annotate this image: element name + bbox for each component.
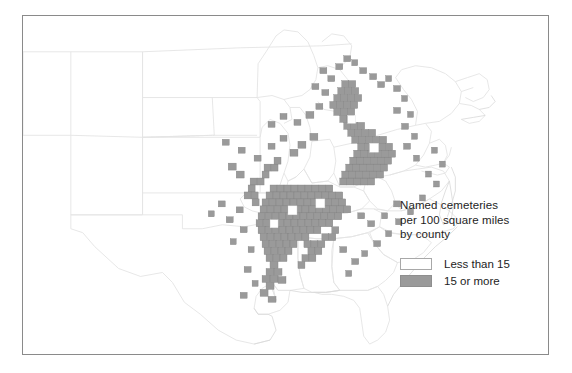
legend-key-list: Less than 15 15 or more <box>400 257 540 289</box>
county-cluster-mississippi <box>260 262 286 303</box>
legend-item-less-than-15: Less than 15 <box>400 257 540 272</box>
county-isolated-west <box>208 201 258 298</box>
legend-item-15-or-more: 15 or more <box>400 274 540 289</box>
state-boundaries <box>23 30 489 344</box>
map-frame <box>22 15 549 355</box>
legend-swatch-less-than-15 <box>400 258 432 270</box>
map-page: Named cemeteries per 100 square miles by… <box>0 0 572 373</box>
legend-label-15-or-more: 15 or more <box>444 275 500 288</box>
map-legend: Named cemeteries per 100 square miles by… <box>400 198 540 291</box>
legend-title: Named cemeteries per 100 square miles by… <box>400 198 540 242</box>
legend-swatch-15-or-more <box>400 275 432 287</box>
map-canvas <box>23 16 548 354</box>
legend-label-less-than-15: Less than 15 <box>444 258 510 271</box>
